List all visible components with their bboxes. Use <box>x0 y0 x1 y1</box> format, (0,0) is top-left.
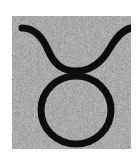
taurus-icon <box>12 16 131 149</box>
noise-textured-tile <box>12 16 131 149</box>
image-canvas: ♉ <box>0 0 139 159</box>
noise-texture <box>12 16 131 149</box>
symbol-glyph: ♉ <box>0 0 1 1</box>
